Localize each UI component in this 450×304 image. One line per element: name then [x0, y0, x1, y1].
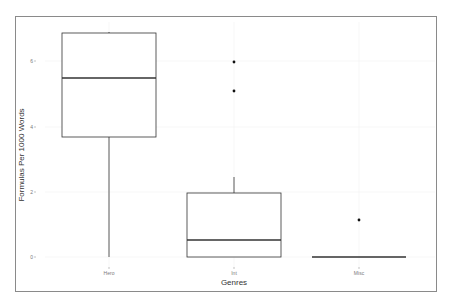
y-tick-label: 4 — [30, 124, 33, 130]
y-axis: 0 2 4 6 Formulas Per 1000 Words — [17, 58, 36, 260]
box-hero — [62, 32, 156, 257]
y-tick-label: 0 — [30, 254, 33, 260]
y-axis-title: Formulas Per 1000 Words — [17, 108, 26, 201]
y-tick-label: 6 — [30, 58, 33, 64]
outlier-point — [233, 90, 236, 93]
outlier-point — [358, 219, 361, 222]
x-axis-title: Genres — [221, 278, 247, 287]
x-axis: Hero Int Misc Genres — [104, 267, 365, 287]
y-tick-label: 2 — [30, 189, 33, 195]
x-tick-label: Hero — [104, 270, 115, 276]
x-tick-label: Misc — [354, 270, 365, 276]
x-tick-label: Int — [231, 270, 237, 276]
outlier-point — [233, 61, 236, 64]
boxplot-chart: 0 2 4 6 Formulas Per 1000 Words Hero Int… — [0, 0, 450, 304]
